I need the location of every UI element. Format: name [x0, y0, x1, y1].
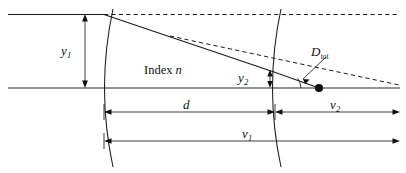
v2-arrowhead-right: [393, 109, 401, 114]
diagram-canvas: [0, 0, 406, 173]
v1-arrowhead-right: [393, 138, 401, 143]
label-d: d: [183, 98, 190, 111]
image-point-dot: [315, 84, 323, 92]
label-y1: y1: [61, 44, 71, 57]
label-v2: v2: [330, 98, 340, 111]
label-v1: v1: [242, 127, 252, 140]
internal-ray-extension: [170, 36, 399, 85]
y1-arrowhead-bottom: [82, 81, 88, 89]
internal-ray: [104, 15, 274, 73]
optics-ray-diagram: y1 Index n y2 d v2 v1 Dtot: [0, 0, 406, 173]
exit-ray: [274, 72, 319, 88]
y2-arrowhead-bottom: [267, 81, 272, 88]
label-index-n: Index n: [144, 64, 182, 77]
label-dtot: Dtot: [311, 45, 328, 58]
y1-arrowhead-top: [82, 14, 88, 22]
deviation-angle-arc: [298, 78, 302, 88]
label-y2: y2: [238, 71, 248, 84]
v2-arrowhead-left: [275, 109, 283, 114]
y2-arrowhead-top: [267, 70, 272, 77]
